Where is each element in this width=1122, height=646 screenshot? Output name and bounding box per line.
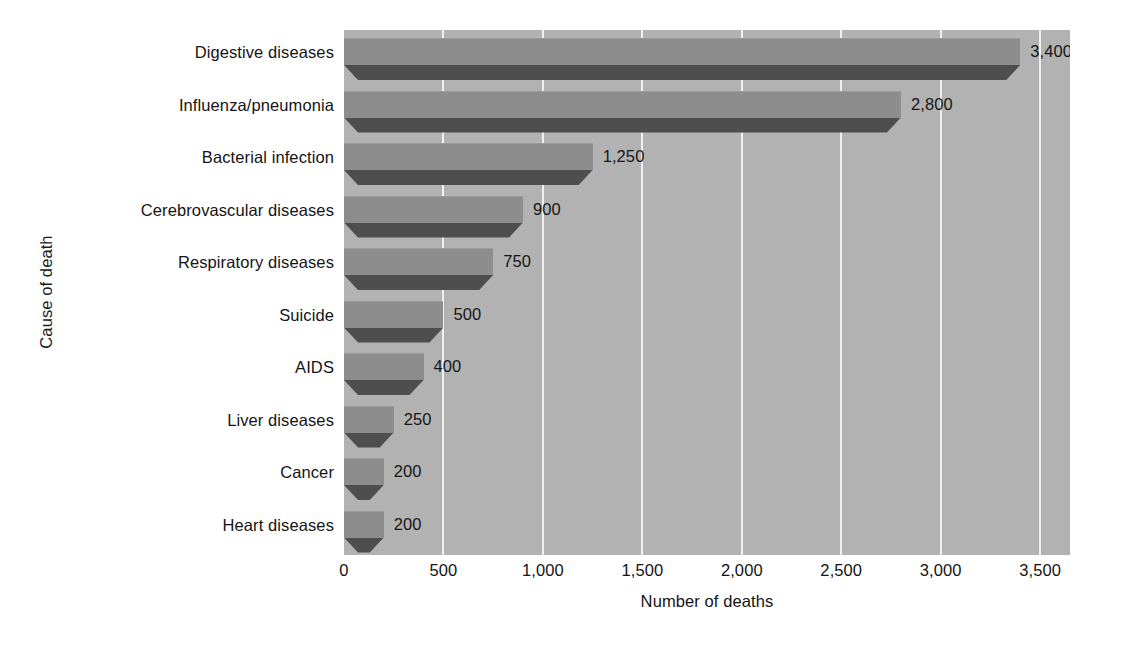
category-label: Heart diseases	[60, 516, 334, 534]
category-label: Liver diseases	[60, 411, 334, 429]
category-label: Influenza/pneumonia	[60, 96, 334, 114]
x-axis-tick-labels: 05001,0001,5002,0002,5003,0003,500	[344, 560, 1070, 584]
bar-value-label: 400	[434, 357, 462, 375]
bar-shadow-face	[344, 538, 384, 553]
x-axis-title: Number of deaths	[344, 592, 1070, 611]
bar[interactable]	[344, 38, 1034, 80]
category-label: Cerebrovascular diseases	[60, 201, 334, 219]
bar-face	[344, 301, 443, 328]
bar-shadow-face	[344, 170, 593, 185]
bar-value-label: 200	[394, 462, 422, 480]
bar-chart: Cause of death Digestive diseasesInfluen…	[0, 0, 1122, 646]
category-label: Suicide	[60, 306, 334, 324]
bar-face	[344, 406, 394, 433]
plot-area: 3,4002,8001,250900750500400250200200	[344, 30, 1070, 555]
bar-value-label: 2,800	[911, 95, 953, 113]
x-tick-label: 3,500	[1019, 560, 1061, 580]
bar-shadow-face	[344, 380, 424, 395]
category-label: Respiratory diseases	[60, 253, 334, 271]
bar-face	[344, 353, 424, 380]
bar-face	[344, 196, 523, 223]
bar-shadow-face	[344, 275, 493, 290]
bar-value-label: 200	[394, 515, 422, 533]
bar-value-label: 500	[453, 305, 481, 323]
bar-value-label: 250	[404, 410, 432, 428]
bar-face	[344, 248, 493, 275]
bar-face	[344, 91, 901, 118]
x-tick-label: 1,500	[621, 560, 663, 580]
bar[interactable]	[344, 511, 398, 553]
bar[interactable]	[344, 196, 537, 238]
x-tick-label: 500	[430, 560, 458, 580]
bar-value-label: 3,400	[1030, 42, 1070, 60]
bar-shadow-face	[344, 223, 523, 238]
bar-shadow-face	[344, 328, 443, 343]
y-axis-tick-labels: Digestive diseasesInfluenza/pneumoniaBac…	[60, 30, 334, 555]
bar[interactable]	[344, 248, 507, 290]
category-label: AIDS	[60, 358, 334, 376]
bar-face	[344, 143, 593, 170]
bar-value-label: 900	[533, 200, 561, 218]
bar-value-label: 1,250	[603, 147, 645, 165]
category-label: Bacterial infection	[60, 148, 334, 166]
bar[interactable]	[344, 353, 438, 395]
x-tick-label: 3,000	[920, 560, 962, 580]
bar-shadow-face	[344, 433, 394, 448]
bar-value-label: 750	[503, 252, 531, 270]
bar-face	[344, 38, 1020, 65]
bar-face	[344, 458, 384, 485]
bar-shadow-face	[344, 485, 384, 500]
gridline	[1039, 30, 1041, 555]
bar[interactable]	[344, 458, 398, 500]
y-axis-title-text: Cause of death	[37, 235, 56, 348]
x-tick-label: 0	[339, 560, 348, 580]
bar[interactable]	[344, 406, 408, 448]
bar-shadow-face	[344, 118, 901, 133]
category-label: Digestive diseases	[60, 43, 334, 61]
bar[interactable]	[344, 91, 915, 133]
x-tick-label: 1,000	[522, 560, 564, 580]
bar[interactable]	[344, 143, 607, 185]
x-tick-label: 2,000	[721, 560, 763, 580]
bar-face	[344, 511, 384, 538]
bar-shadow-face	[344, 65, 1020, 80]
bar[interactable]	[344, 301, 457, 343]
x-tick-label: 2,500	[820, 560, 862, 580]
category-label: Cancer	[60, 463, 334, 481]
